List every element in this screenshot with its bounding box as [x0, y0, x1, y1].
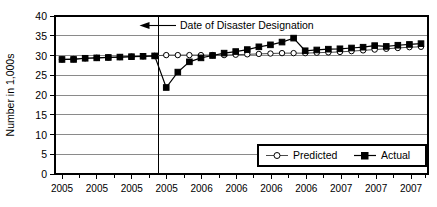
actual-data-point [94, 55, 100, 61]
x-tick-label-4: 2006 [190, 183, 213, 194]
predicted-data-point [256, 51, 261, 56]
x-tick-label-0: 2005 [51, 183, 74, 194]
legend-label-predicted: Predicted [293, 149, 338, 161]
x-tick-label-7: 2006 [295, 183, 318, 194]
x-tick-label-1: 2005 [86, 183, 109, 194]
x-tick-label-9: 2007 [365, 183, 388, 194]
actual-data-point [163, 85, 169, 91]
actual-data-point [291, 35, 297, 41]
actual-data-point [117, 54, 123, 60]
legend-label-actual: Actual [381, 149, 410, 161]
actual-data-point [256, 44, 262, 50]
actual-data-point [59, 57, 65, 63]
actual-data-point [129, 54, 135, 60]
actual-data-point [337, 46, 343, 52]
predicted-data-point [268, 51, 273, 56]
chart-legend[interactable]: Predicted Actual [258, 145, 426, 166]
actual-data-point [349, 45, 355, 51]
y-tick-label-20: 20 [35, 89, 47, 101]
y-axis-title: Number in 1,000s [4, 54, 16, 137]
actual-data-point [395, 42, 401, 48]
actual-data-point [244, 47, 250, 53]
actual-data-point [187, 59, 193, 65]
filled-square-icon [362, 153, 369, 160]
x-tick-label-5: 2006 [225, 183, 248, 194]
actual-data-point [360, 44, 366, 50]
actual-data-point [152, 53, 158, 59]
open-circle-icon [274, 153, 280, 159]
actual-data-point [140, 53, 146, 59]
actual-data-point [302, 48, 308, 54]
actual-data-point [210, 53, 216, 59]
actual-data-point [314, 47, 320, 53]
actual-data-point [326, 46, 332, 52]
x-tick-label-8: 2007 [330, 183, 353, 194]
actual-data-point [221, 50, 227, 56]
actual-data-point [233, 49, 239, 55]
predicted-data-point [291, 50, 296, 55]
x-minor-tick-marks [79, 174, 425, 178]
y-tick-label-25: 25 [35, 69, 47, 81]
actual-data-point [372, 43, 378, 49]
actual-data-point [82, 55, 88, 61]
actual-data-point [418, 41, 424, 47]
actual-data-point [175, 69, 181, 75]
actual-data-point [407, 42, 413, 48]
predicted-data-point [187, 52, 192, 57]
y-tick-label-5: 5 [41, 148, 47, 160]
actual-data-point [268, 42, 274, 48]
predicted-data-point [175, 52, 180, 57]
actual-data-point [383, 44, 389, 50]
y-tick-label-35: 35 [35, 30, 47, 42]
actual-data-point [279, 39, 285, 45]
y-tick-label-10: 10 [35, 129, 47, 141]
y-tick-label-30: 30 [35, 50, 47, 62]
actual-data-point [198, 55, 204, 61]
actual-data-point [106, 55, 112, 61]
x-tick-label-10: 2007 [400, 183, 423, 194]
y-tick-label-40: 40 [35, 10, 47, 22]
y-tick-marks [50, 16, 55, 174]
predicted-data-point [279, 50, 284, 55]
disaster-annotation-label: Date of Disaster Designation [180, 19, 314, 31]
actual-data-point [71, 57, 77, 63]
y-tick-label-15: 15 [35, 109, 47, 121]
y-tick-label-0: 0 [41, 168, 47, 180]
x-tick-label-2: 2005 [121, 183, 144, 194]
chart-container: 40 35 30 25 20 15 10 5 0 Number in 1,000… [0, 0, 437, 207]
predicted-data-point [164, 52, 169, 57]
x-tick-label-3: 2005 [156, 183, 179, 194]
line-chart: 40 35 30 25 20 15 10 5 0 Number in 1,000… [0, 0, 437, 207]
x-tick-label-6: 2006 [260, 183, 283, 194]
